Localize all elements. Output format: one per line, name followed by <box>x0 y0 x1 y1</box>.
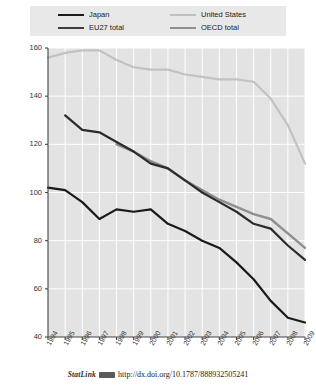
legend-label-oecd-total: OECD total <box>201 23 239 33</box>
legend-entry-japan: Japan <box>58 9 124 21</box>
legend-swatch-eu27-total <box>58 27 84 29</box>
statlink-label: StatLink <box>68 370 96 379</box>
y-axis-tick-label: 120 <box>20 140 42 148</box>
line-chart: 406080100120140160 199419951996199719981… <box>0 40 316 345</box>
statlink-url[interactable]: http://dx.doi.org/10.1787/888932505241 <box>118 370 248 379</box>
legend-swatch-united-states <box>170 14 196 16</box>
legend-column-right: United States OECD total <box>170 9 246 35</box>
y-axis-tick-label: 80 <box>20 237 42 245</box>
y-axis-tick-label: 40 <box>20 333 42 341</box>
y-axis-tick-label: 140 <box>20 92 42 100</box>
legend-entry-eu27-total: EU27 total <box>58 22 124 34</box>
legend-label-japan: Japan <box>89 10 109 20</box>
legend-label-united-states: United States <box>201 10 246 20</box>
legend-column-left: Japan EU27 total <box>58 9 124 35</box>
statlink-barcode-icon <box>99 372 115 378</box>
legend-swatch-oecd-total <box>170 27 196 29</box>
legend-entry-united-states: United States <box>170 9 246 21</box>
y-axis-tick-label: 100 <box>20 189 42 197</box>
y-axis-tick-label: 60 <box>20 285 42 293</box>
legend-swatch-japan <box>58 14 84 16</box>
legend-label-eu27-total: EU27 total <box>89 23 124 33</box>
legend-entry-oecd-total: OECD total <box>170 22 246 34</box>
statlink-footer: StatLinkhttp://dx.doi.org/10.1787/888932… <box>0 363 316 381</box>
y-axis-tick-label: 160 <box>20 44 42 52</box>
plot-canvas <box>0 40 316 345</box>
chart-legend: Japan EU27 total United States OECD tota… <box>30 6 286 36</box>
